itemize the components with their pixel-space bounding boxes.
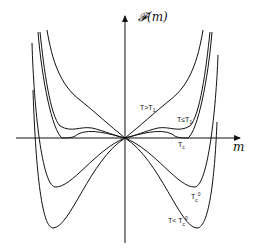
label-sub: 1	[153, 107, 156, 113]
label-sub: c	[195, 197, 198, 203]
label-text: T< T	[168, 217, 182, 224]
label-t-gt-t1: T>T1	[140, 104, 155, 113]
label-sup: 0	[198, 191, 201, 197]
label-text: T>T	[140, 104, 153, 111]
free-energy-chart: 𝓕(m) m T>T1 T≤T1 Tc Tc0 T< Tc0	[0, 0, 260, 252]
label-text: T≤T	[177, 116, 189, 123]
label-sub: 1	[189, 119, 192, 125]
label-sup: 0	[185, 215, 188, 221]
y-axis-label: 𝓕(m)	[138, 10, 168, 24]
label-t-lt-tc0: T< Tc0	[168, 216, 188, 227]
label-tc: Tc	[178, 141, 185, 150]
label-sub: c	[182, 221, 185, 227]
label-sub: c	[182, 144, 185, 150]
label-t-le-t1: T≤T1	[177, 116, 192, 125]
chart-canvas	[0, 0, 260, 252]
label-tc0: Tc0	[191, 192, 201, 203]
x-axis-label: m	[233, 140, 244, 154]
